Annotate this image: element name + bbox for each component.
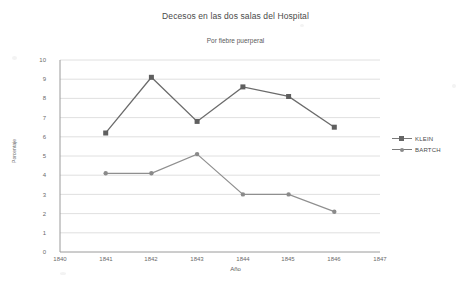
data-point-marker	[332, 209, 336, 213]
data-point-marker	[104, 171, 108, 175]
data-point-marker	[103, 131, 108, 136]
legend-circle-marker-icon	[392, 146, 412, 153]
legend-item-klein: KLEIN	[392, 133, 441, 144]
series-markers-bartch	[104, 152, 337, 214]
data-point-marker	[240, 84, 245, 89]
data-point-marker	[241, 192, 245, 196]
data-point-marker	[149, 75, 154, 80]
data-point-marker	[195, 152, 199, 156]
data-point-marker	[195, 119, 200, 124]
legend-label: BARTCH	[415, 147, 441, 153]
series-line-bartch	[106, 154, 335, 212]
series-line-klein	[106, 77, 335, 133]
legend-square-marker-icon	[392, 135, 412, 142]
legend-label: KLEIN	[415, 136, 433, 142]
data-point-marker	[286, 94, 291, 99]
data-point-marker	[332, 125, 337, 130]
chart-figure: Decesos en las dos salas del Hospital Po…	[0, 0, 471, 289]
gridlines	[60, 60, 380, 233]
legend-item-bartch: BARTCH	[392, 144, 441, 155]
data-point-marker	[286, 192, 290, 196]
chart-legend: KLEIN BARTCH	[392, 133, 441, 155]
data-point-marker	[149, 171, 153, 175]
